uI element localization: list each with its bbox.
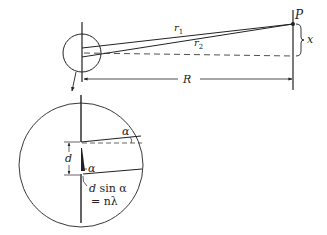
x-brace — [296, 24, 304, 56]
double-slit-diagram: P r1 r2 x R d α α d sin α = nλ — [0, 0, 327, 235]
label-n-lambda: = nλ — [91, 195, 118, 208]
angle-arc-top — [130, 137, 132, 143]
label-alpha-bottom: α — [88, 162, 96, 175]
label-alpha-top: α — [122, 125, 130, 138]
magnified-view: d α α d sin α = nλ — [19, 95, 143, 227]
zoom-pointer-arrow — [72, 72, 76, 91]
label-path-difference: d sin α — [89, 182, 127, 195]
label-r2: r2 — [194, 37, 203, 51]
center-axis-dashed — [84, 53, 293, 56]
label-r1: r1 — [174, 22, 183, 36]
ray-r2 — [82, 24, 293, 57]
label-R: R — [182, 73, 191, 86]
label-p: P — [294, 8, 304, 22]
overview: P r1 r2 x R — [63, 8, 314, 91]
point-p-dot — [291, 22, 295, 26]
label-d: d — [65, 152, 72, 165]
label-x: x — [307, 33, 314, 46]
path-diff-pointer — [83, 176, 87, 186]
path-difference-wedge — [81, 148, 85, 171]
ray-r1 — [82, 24, 293, 48]
